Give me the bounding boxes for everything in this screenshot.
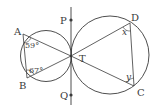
angle-label-y: y [125, 72, 132, 82]
label-d: D [131, 12, 139, 23]
label-b: B [19, 80, 26, 91]
geometry-diagram: A B C D P Q T 59° 67° x y [0, 0, 159, 109]
angle-label-x: x [122, 27, 127, 37]
point-p-dot [69, 18, 72, 21]
label-p: P [60, 15, 67, 26]
angle-label-a: 59° [25, 41, 39, 50]
label-c: C [137, 87, 145, 98]
label-t: T [79, 53, 86, 64]
angle-label-b: 67° [29, 66, 43, 75]
label-q: Q [60, 90, 68, 101]
point-t-dot [70, 55, 72, 57]
label-a: A [13, 26, 22, 37]
point-q-dot [69, 93, 72, 96]
